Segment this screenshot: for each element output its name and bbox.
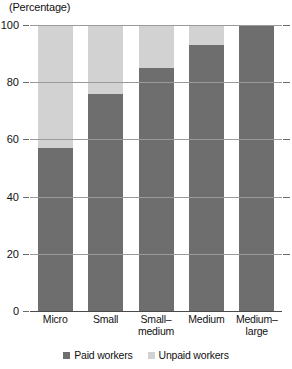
bar-segment[interactable] [88, 25, 123, 94]
bar-segment[interactable] [189, 25, 224, 45]
gridline-20 [30, 254, 282, 255]
bar-group[interactable] [189, 25, 224, 311]
chart-legend: Paid workersUnpaid workers [0, 349, 292, 361]
y-tick-left-80 [23, 82, 29, 83]
y-axis-label-0: 0 [13, 306, 19, 317]
gridline-60 [30, 139, 282, 140]
category-label: Small–medium [128, 313, 184, 337]
chart-axis-title: (Percentage) [9, 1, 70, 14]
bar-group[interactable] [88, 25, 123, 311]
y-tick-left-20 [23, 254, 29, 255]
bar-segment[interactable] [139, 25, 174, 68]
stacked-bar-chart: (Percentage) 020406080100 MicroSmallSmal… [0, 0, 292, 369]
y-tick-left-0 [23, 311, 29, 312]
bar-group[interactable] [239, 25, 274, 311]
bar-segment[interactable] [189, 45, 224, 311]
y-axis-label-80: 80 [7, 77, 19, 88]
y-tick-left-60 [23, 139, 29, 140]
y-axis-label-20: 20 [7, 248, 19, 259]
category-label: Micro [27, 313, 83, 325]
bar-segment[interactable] [139, 68, 174, 311]
bar-segment[interactable] [239, 25, 274, 311]
category-label: Medium–large [229, 313, 285, 337]
legend-item[interactable]: Unpaid workers [148, 349, 229, 361]
category-axis-labels: MicroSmallSmall–mediumMediumMedium–large [30, 313, 282, 347]
bar-group[interactable] [139, 25, 174, 311]
y-tick-right-60 [283, 139, 290, 140]
gridline-0 [30, 311, 282, 312]
y-axis-label-60: 60 [7, 134, 19, 145]
legend-swatch-unpaid [148, 352, 155, 359]
legend-item-label: Unpaid workers [159, 349, 229, 361]
gridline-80 [30, 82, 282, 83]
bars-layer [30, 25, 282, 311]
bar-segment[interactable] [38, 148, 73, 311]
legend-item[interactable]: Paid workers [63, 349, 132, 361]
plot-area: 020406080100 [30, 25, 282, 311]
legend-item-label: Paid workers [74, 349, 132, 361]
legend-swatch-paid [63, 352, 70, 359]
gridline-40 [30, 197, 282, 198]
y-tick-right-100 [283, 25, 290, 26]
category-label: Medium [178, 313, 234, 325]
y-tick-left-40 [23, 197, 29, 198]
y-tick-right-20 [283, 254, 290, 255]
y-axis-label-40: 40 [7, 191, 19, 202]
category-label: Small [78, 313, 134, 325]
y-tick-left-100 [23, 25, 29, 26]
bar-segment[interactable] [38, 25, 73, 148]
bar-segment[interactable] [88, 94, 123, 311]
y-axis-label-100: 100 [1, 20, 19, 31]
y-tick-right-40 [283, 197, 290, 198]
y-tick-right-80 [283, 82, 290, 83]
bar-group[interactable] [38, 25, 73, 311]
gridline-100 [30, 25, 282, 26]
